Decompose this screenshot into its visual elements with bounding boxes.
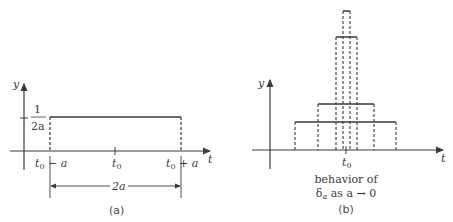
panel-a: y t 1 2a t0 − a t0 t0 + a 2a (a) <box>10 78 213 217</box>
pulse-3-b <box>336 37 357 150</box>
tick-label-left-a: t0 − a <box>35 157 67 171</box>
width-label-a: 2a <box>111 180 126 193</box>
height-label-num: 1 <box>34 103 41 116</box>
t-axis-label-a: t <box>208 153 213 166</box>
diagram-canvas: y t 1 2a t0 − a t0 t0 + a 2a (a) y t <box>0 0 453 222</box>
pulse-4-b <box>343 11 350 150</box>
caption-a: (a) <box>109 204 124 217</box>
tick-label-center-b: t0 <box>342 156 352 170</box>
panel-b: y t t0 behavior of δa <box>252 11 446 216</box>
pulse-2-b <box>318 104 374 150</box>
description-line1-b: behavior of <box>315 173 379 186</box>
y-axis-label-a: y <box>12 78 20 91</box>
t-axis-label-b: t <box>441 152 446 165</box>
description-line2-b: δa as a → 0 <box>316 187 376 201</box>
tick-label-right-a: t0 + a <box>166 157 198 171</box>
tick-label-center-a: t0 <box>112 157 122 171</box>
pulse-1-b <box>295 122 396 150</box>
caption-b: (b) <box>338 203 354 216</box>
height-label-den: 2a <box>31 120 45 133</box>
y-axis-label-b: y <box>257 77 265 90</box>
